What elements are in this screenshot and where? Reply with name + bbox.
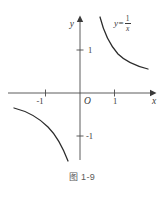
function-label-denominator: x <box>125 25 130 33</box>
x-axis-label: x <box>151 96 157 106</box>
tick-label-y-negative-one: -1 <box>86 131 93 141</box>
curve-branch-negative <box>14 108 68 161</box>
function-label-fraction: 1 x <box>125 15 131 32</box>
y-axis-label: y <box>69 19 75 29</box>
tick-label-x-negative-one: -1 <box>36 96 43 106</box>
y-axis-arrow-icon <box>77 16 83 23</box>
figure-container: -1 1 1 -1 y x O y = 1 x 图 1-9 <box>0 0 164 197</box>
tick-label-y-positive-one: 1 <box>88 45 92 55</box>
function-label-equals: = <box>119 19 124 28</box>
tick-label-x-positive-one: 1 <box>113 96 117 106</box>
function-label-numerator: 1 <box>125 15 131 23</box>
function-label-lhs: y <box>114 19 118 28</box>
coordinate-plot-svg: -1 1 1 -1 y x O <box>0 0 164 170</box>
figure-caption: 图 1-9 <box>0 170 164 183</box>
plot-area: -1 1 1 -1 y x O y = 1 x <box>0 0 164 170</box>
function-label: y = 1 x <box>114 15 131 32</box>
origin-label: O <box>84 96 91 106</box>
